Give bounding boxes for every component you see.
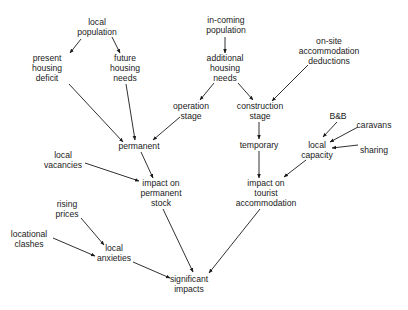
node-label-line: deficit [32,73,62,83]
node-temporary: temporary [240,140,279,150]
node-label-line: local [97,243,131,253]
node-label-line: rising [56,199,79,209]
node-label-line: caravans [357,120,392,130]
node-present-housing-deficit: presenthousingdeficit [32,53,62,83]
arrow-impact-on-tourist-accommodation-to-significant-impacts [209,209,260,273]
node-label-line: in-coming [206,15,246,25]
node-label-line: housing [110,63,140,73]
node-bnb: B&B [329,111,346,121]
node-label-line: operation [173,101,209,111]
node-label-line: on-site [299,36,360,46]
node-label-line: housing [207,63,244,73]
arrow-present-housing-deficit-to-permanent [69,84,123,142]
node-label-line: temporary [240,140,279,150]
arrow-sharing-to-local-capacity [332,145,358,148]
node-label-line: construction [237,101,283,111]
node-label-line: sharing [360,145,388,155]
node-label-line: needs [207,73,244,83]
node-impact-on-tourist-accommodation: impact ontouristaccommodation [236,178,297,208]
node-permanent: permanent [118,141,159,151]
node-label-line: capacity [301,150,333,160]
node-significant-impacts: significantimpacts [170,274,208,294]
arrow-permanent-to-impact-on-permanent-stock [141,152,153,178]
arrow-local-capacity-to-impact-on-tourist-accommodation [284,160,306,177]
node-label-line: accommodation [299,46,360,56]
node-label-line: significant [170,274,208,284]
node-impact-on-permanent-stock: impact onpermanentstock [140,178,181,208]
node-label-line: prices [56,209,79,219]
arrow-impact-on-permanent-stock-to-significant-impacts [163,209,193,272]
node-locational-clashes: locationalclashes [11,229,47,249]
arrow-bnb-to-local-capacity [323,122,337,137]
arrow-local-anxieties-to-significant-impacts [133,262,170,278]
flow-diagram: localpopulationpresenthousingdeficitfutu… [0,0,408,310]
node-label-line: vacancies [44,160,82,170]
node-label-line: clashes [11,239,47,249]
node-label-line: B&B [329,111,346,121]
node-label-line: present [32,53,62,63]
node-label-line: additional [207,53,244,63]
node-label-line: impacts [170,284,208,294]
node-label-line: deductions [299,56,360,66]
node-label-line: stage [173,111,209,121]
node-in-coming-population: in-comingpopulation [206,15,246,35]
node-rising-prices: risingprices [56,199,79,219]
node-local-capacity: localcapacity [301,140,333,160]
arrow-local-population-to-present-housing-deficit [70,39,81,53]
node-sharing: sharing [360,145,388,155]
node-label-line: permanent [140,188,181,198]
node-local-population: localpopulation [77,17,117,37]
node-label-line: impact on [236,178,297,188]
node-label-line: future [110,53,140,63]
arrow-additional-housing-needs-to-construction-stage [238,83,253,100]
node-label-line: impact on [140,178,181,188]
arrow-local-population-to-future-housing-needs [112,37,120,53]
arrow-locational-clashes-to-local-anxieties [53,238,95,256]
node-label-line: population [206,25,246,35]
arrow-caravans-to-local-capacity [330,127,358,142]
node-label-line: accommodation [236,198,297,208]
arrow-additional-housing-needs-to-operation-stage [200,83,214,100]
arrow-local-vacancies-to-impact-on-permanent-stock [85,163,139,181]
node-label-line: permanent [118,141,159,151]
node-label-line: locational [11,229,47,239]
node-label-line: tourist [236,188,297,198]
node-label-line: needs [110,73,140,83]
node-label-line: local [44,150,82,160]
node-label-line: stage [237,111,283,121]
arrow-rising-prices-to-local-anxieties [81,218,104,245]
node-caravans: caravans [357,120,392,130]
node-label-line: stock [140,198,181,208]
node-label-line: housing [32,63,62,73]
node-future-housing-needs: futurehousingneeds [110,53,140,83]
arrow-on-site-accommodation-deductions-to-construction-stage [272,65,308,101]
arrow-future-housing-needs-to-permanent [126,84,135,140]
node-local-anxieties: localanxieties [97,243,131,263]
node-construction-stage: constructionstage [237,101,283,121]
node-operation-stage: operationstage [173,101,209,121]
node-additional-housing-needs: additionalhousingneeds [207,53,244,83]
node-label-line: population [77,27,117,37]
node-label-line: local [301,140,333,150]
node-label-line: local [77,17,117,27]
node-on-site-accommodation-deductions: on-siteaccommodationdeductions [299,36,360,66]
node-local-vacancies: localvacancies [44,150,82,170]
node-label-line: anxieties [97,253,131,263]
